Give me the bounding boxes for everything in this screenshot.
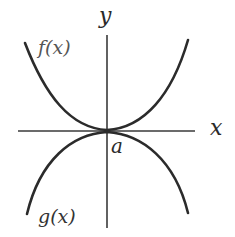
tangent-curves-diagram: y x a f(x) g(x) — [0, 0, 235, 237]
diagram-canvas — [0, 0, 235, 237]
y-axis-label: y — [99, 5, 111, 27]
x-axis-label: x — [210, 117, 222, 139]
g-curve-label: g(x) — [38, 207, 76, 226]
point-a-label: a — [111, 136, 123, 156]
f-curve-label: f(x) — [38, 38, 71, 57]
